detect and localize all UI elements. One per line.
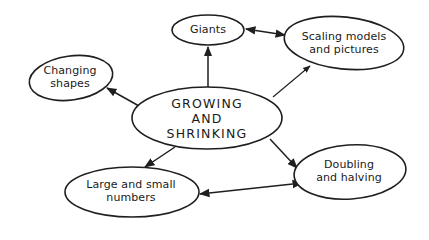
edge-giants-scaling-models [246,29,285,35]
edge-large-small-numbers-doubling-halving [200,183,302,194]
edge-center-to-scaling-models [273,66,310,97]
edge-center-to-changing-shapes [107,88,139,106]
node-large-small-numbers-label: Large and small numbers [86,179,175,204]
node-center-label: GROWING AND SHRINKING [167,96,248,141]
node-changing-shapes-label: Changing shapes [43,65,96,90]
edge-center-to-doubling-halving [270,139,297,168]
node-giants-label: Giants [190,24,226,37]
node-doubling-halving-label: Doubling and halving [316,159,382,184]
node-scaling-models-label: Scaling models and pictures [302,31,387,56]
edge-center-to-large-small-numbers [145,147,175,167]
